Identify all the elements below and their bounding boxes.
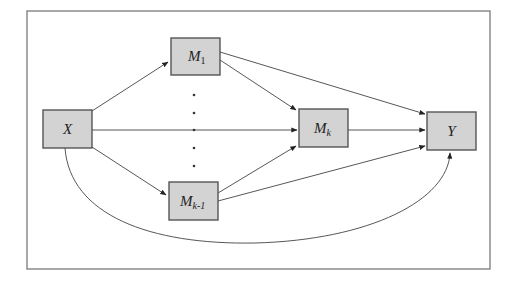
node-mk-subscript: k (327, 127, 332, 138)
node-x: X (43, 110, 92, 148)
node-x-label: X (62, 121, 73, 137)
node-m1-subscript: 1 (201, 55, 206, 66)
node-mk1: Mk-1 (169, 182, 218, 220)
ellipsis-dot (193, 112, 196, 115)
ellipsis-dot (193, 129, 196, 132)
node-mk1-subscript: k-1 (193, 200, 206, 211)
mediation-diagram: X M1 Mk-1 Mk Y (0, 0, 516, 285)
node-mk: Mk (299, 109, 348, 147)
ellipsis-dot (193, 165, 196, 168)
ellipsis-dot (193, 94, 196, 97)
diagram-frame (27, 11, 490, 269)
node-m1: M1 (171, 38, 220, 75)
node-y: Y (427, 112, 476, 150)
ellipsis-dot (193, 147, 196, 150)
